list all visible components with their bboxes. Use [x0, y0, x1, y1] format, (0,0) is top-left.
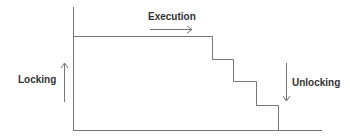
execution-label: Execution [148, 11, 196, 22]
unlocking-down-arrow-icon [283, 63, 290, 101]
locking-up-arrow-icon [61, 63, 68, 102]
execution-arrow-icon [150, 26, 192, 33]
lock-count-profile [73, 37, 279, 131]
locking-label: Locking [18, 74, 56, 85]
unlocking-label: Unlocking [292, 77, 340, 88]
